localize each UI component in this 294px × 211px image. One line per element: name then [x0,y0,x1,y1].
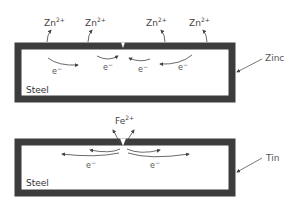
electron-label: e− [178,62,188,72]
steel-label-bottom: Steel [26,178,49,188]
electron-label: e− [150,160,160,170]
electron-label: e− [103,62,113,72]
zn-ion-label-2: Zn2+ [85,17,106,28]
zn-ion-label-4: Zn2+ [189,17,210,28]
electron-label: e− [138,64,148,74]
zn-ion-label-3: Zn2+ [146,17,167,28]
electron-label: e− [52,66,62,76]
zinc-label: Zinc [265,53,284,63]
fe-ion-label: Fe2+ [115,115,134,126]
electron-label: e− [86,160,96,170]
zinc-coated-steel [18,43,232,100]
tin-label: Tin [266,153,279,163]
tin-coated-steel [18,139,232,194]
zn-ion-label-1: Zn2+ [44,17,65,28]
steel-label-top: Steel [26,85,49,95]
